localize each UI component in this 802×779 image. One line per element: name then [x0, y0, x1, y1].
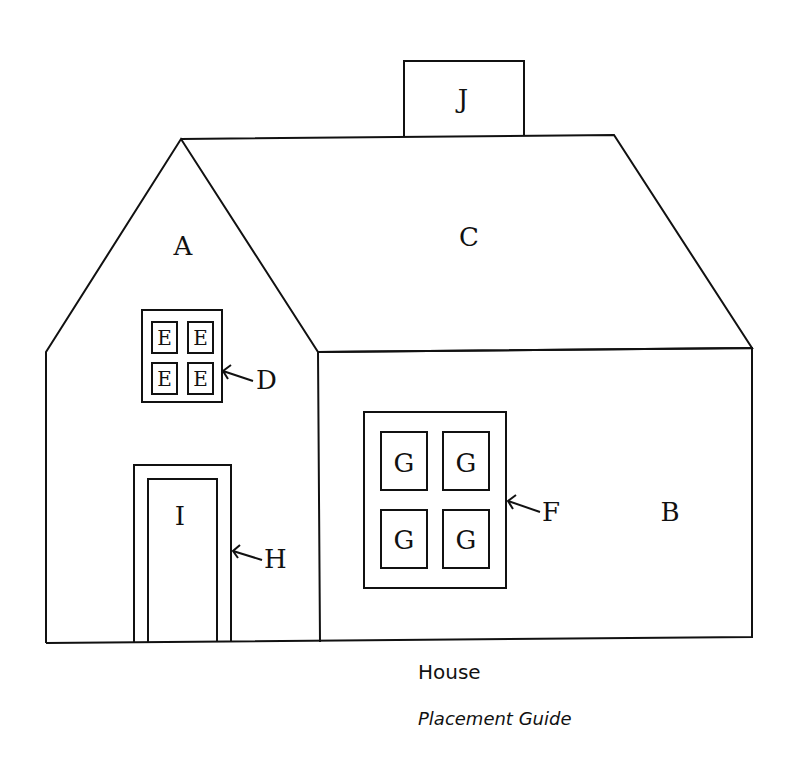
- label-d: D: [256, 365, 277, 395]
- label-j: J: [455, 84, 468, 114]
- label-a: A: [173, 231, 194, 261]
- label-e: E: [193, 326, 208, 350]
- label-i: I: [175, 501, 185, 531]
- label-c: C: [459, 222, 479, 252]
- window-frame-piece-d: [142, 310, 222, 402]
- arrow-icon: [223, 365, 253, 381]
- label-f: F: [542, 497, 560, 527]
- label-g: G: [456, 525, 477, 555]
- arrow-icon: [233, 545, 262, 560]
- label-g: G: [456, 448, 477, 478]
- caption-subtitle: Placement Guide: [418, 708, 572, 729]
- label-b: B: [660, 497, 679, 527]
- label-e: E: [193, 367, 208, 391]
- label-e: E: [157, 367, 172, 391]
- house-diagram: J C A E E E E D G G G G F B I H: [0, 0, 802, 779]
- window-frame-piece-f: [364, 412, 506, 588]
- label-h: H: [264, 544, 287, 574]
- label-e: E: [157, 326, 172, 350]
- caption-title: House: [418, 660, 481, 684]
- label-g: G: [394, 448, 415, 478]
- label-g: G: [394, 525, 415, 555]
- arrow-icon: [508, 495, 540, 512]
